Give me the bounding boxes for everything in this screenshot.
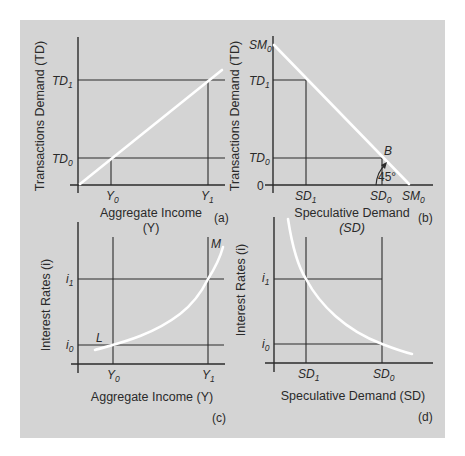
panel-b-tag: (b) — [418, 211, 433, 225]
panel-b-x-axis-label-symbol: (SD) — [339, 221, 365, 235]
panel-a-x-axis-label-symbol: (Y) — [143, 221, 160, 235]
figure: Transactions Demand (TD) TD1 TD0 Y0 Y1 A… — [0, 0, 465, 456]
panel-b-x-axis-label: Speculative Demand — [294, 206, 409, 220]
panel-d-x-axis-label: Speculative Demand (SD) — [281, 389, 426, 403]
panel-c-label-m: M — [211, 237, 221, 251]
panel-a-tag: (a) — [214, 211, 229, 225]
panel-b-tick-zero: 0 — [257, 179, 264, 193]
panel-b-angle-label: 45° — [378, 170, 396, 184]
panel-c-label-l: L — [96, 331, 103, 345]
panel-a-x-axis-label: Aggregate Income — [100, 206, 202, 220]
panel-d-y-axis-label: Interest Rates (i) — [234, 244, 248, 336]
panel-a-y-axis-label: Transactions Demand (TD) — [33, 41, 47, 191]
panel-b-point-b-label: B — [384, 144, 392, 158]
panel-c-x-axis-label: Aggregate Income (Y) — [91, 390, 213, 404]
panel-c-y-axis-label: Interest Rates (i) — [39, 259, 53, 351]
panel-d-tag: (d) — [418, 410, 433, 424]
panel-c-tag: (c) — [212, 411, 226, 425]
panel-b-y-axis-label: Transactions Demand (TD) — [228, 41, 242, 191]
